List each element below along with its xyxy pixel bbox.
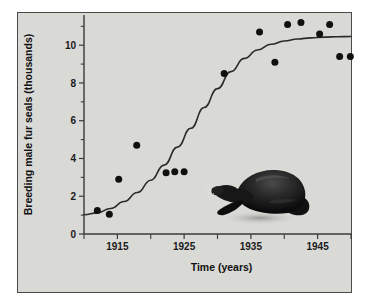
x-axis-tick-labels: 1915192519351945 xyxy=(106,241,329,252)
data-point xyxy=(171,168,178,175)
data-point xyxy=(271,59,278,66)
data-point xyxy=(316,30,323,37)
y-tick-label: 8 xyxy=(70,78,76,89)
y-tick-label: 2 xyxy=(70,191,76,202)
data-point xyxy=(256,28,263,35)
data-point xyxy=(163,169,170,176)
data-points xyxy=(94,19,354,218)
y-tick-label: 10 xyxy=(65,40,77,51)
data-point xyxy=(133,142,140,149)
scatter-chart: 0246810 1915192519351945 Time (years) Br… xyxy=(18,13,353,294)
data-point xyxy=(221,70,228,77)
data-point xyxy=(336,53,343,60)
figure-container: 0246810 1915192519351945 Time (years) Br… xyxy=(0,0,369,307)
y-axis-ticks xyxy=(79,26,84,234)
data-point xyxy=(94,207,101,214)
y-axis-tick-labels: 0246810 xyxy=(65,40,77,240)
x-tick-label: 1915 xyxy=(106,241,129,252)
data-point xyxy=(326,21,333,28)
data-point xyxy=(115,176,122,183)
data-point xyxy=(284,21,291,28)
data-point xyxy=(297,19,304,26)
chart-panel: 0246810 1915192519351945 Time (years) Br… xyxy=(17,12,352,293)
y-tick-label: 0 xyxy=(70,229,76,240)
x-tick-label: 1945 xyxy=(307,241,330,252)
x-tick-label: 1935 xyxy=(240,241,263,252)
logistic-fit-curve xyxy=(84,37,351,215)
y-axis-title: Breeding male fur seals (thousands) xyxy=(22,34,34,215)
x-axis-title: Time (years) xyxy=(191,261,253,273)
data-point xyxy=(106,211,113,218)
x-axis-ticks xyxy=(84,234,351,239)
y-tick-label: 6 xyxy=(70,115,76,126)
y-tick-label: 4 xyxy=(70,153,76,164)
plot-area: 0246810 1915192519351945 Time (years) Br… xyxy=(18,13,353,294)
x-tick-label: 1925 xyxy=(173,241,196,252)
data-point xyxy=(181,168,188,175)
data-point xyxy=(347,53,354,60)
